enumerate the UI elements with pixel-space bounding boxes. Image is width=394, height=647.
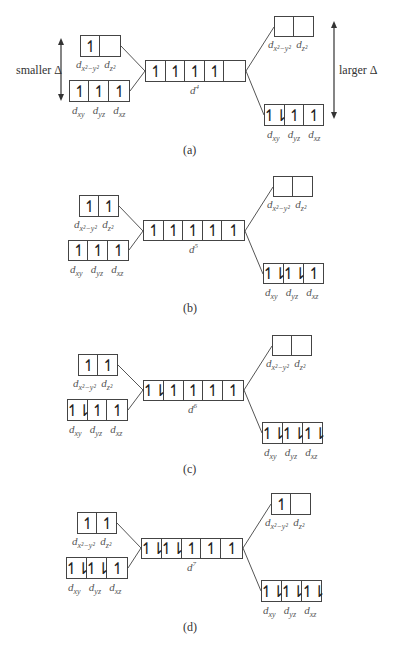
strong-field-t2g-box: ↿⇂ ↿⇂ ↿ <box>263 263 324 284</box>
free-orbital-5: ↿ <box>223 381 243 400</box>
orbital-dxz: ↿ <box>107 400 127 420</box>
strong-field-t2g-box: ↿⇂ ↿⇂ ↿⇂ <box>261 580 322 602</box>
free-orbital-1: ↿ <box>146 61 166 81</box>
strong-field-eg-box <box>274 16 314 37</box>
free-orbital-4: ↿ <box>203 381 223 400</box>
weak-field-t2g-box: ↿ ↿ ↿ <box>68 240 129 261</box>
orbital-dx2y2 <box>275 17 294 36</box>
config-label: d5 <box>189 242 198 255</box>
eg-labels: dx²−y² dz² <box>267 198 306 213</box>
panel-c: ↿ ↿ dx²−y² dz² ↿⇂ ↿ ↿ dxy dyz dxz ↿⇂ ↿ ↿… <box>0 320 394 480</box>
orbital-dxz: ↿ <box>304 264 323 283</box>
strong-field-eg-box <box>272 335 312 356</box>
orbital-dz2 <box>100 36 120 56</box>
orbital-dx2y2: ↿ <box>81 36 100 56</box>
free-orbital-3: ↿ <box>185 61 205 81</box>
free-orbital-5 <box>224 61 245 81</box>
panel-a: smaller Δ larger Δ ↿ dx²−y² dz² ↿ ↿ ↿ dx… <box>0 0 394 160</box>
t2g-labels: dxy dyz dxz <box>264 446 317 461</box>
t2g-labels: dxy dyz dxz <box>72 104 125 119</box>
orbital-dxy: ↿⇂ <box>67 558 87 578</box>
smaller-delta-label: smaller Δ <box>16 63 62 78</box>
connector-lines <box>0 480 394 640</box>
free-orbital-1: ↿ <box>144 221 164 240</box>
orbital-dyz: ↿⇂ <box>283 423 303 443</box>
orbital-dyz: ↿ <box>88 400 107 420</box>
orbital-dxy: ↿⇂ <box>264 264 284 283</box>
t2g-labels: dxy dyz dxz <box>69 423 122 438</box>
t2g-labels: dxy dyz dxz <box>263 604 316 619</box>
free-orbital-1: ↿⇂ <box>142 539 162 558</box>
t2g-labels: dxy dyz dxz <box>70 263 123 278</box>
orbital-dz2 <box>293 177 312 196</box>
orbital-dxy: ↿ <box>69 241 88 260</box>
panel-caption: (c) <box>183 462 196 477</box>
weak-field-t2g-box: ↿⇂ ↿⇂ ↿ <box>66 557 128 579</box>
t2g-labels: dxy dyz dxz <box>267 128 320 143</box>
config-label: d6 <box>188 402 197 415</box>
weak-field-eg-box: ↿ ↿ <box>78 354 118 376</box>
eg-labels: dx²−y² dz² <box>72 535 111 550</box>
panel-caption: (a) <box>183 143 196 158</box>
free-orbital-1: ↿⇂ <box>144 381 164 400</box>
orbital-dxy: ↿⇂ <box>68 400 88 420</box>
orbital-dx2y2: ↿ <box>80 196 99 216</box>
free-ion-box: ↿ ↿ ↿ ↿ <box>145 60 246 82</box>
strong-field-t2g-box: ↿⇂ ↿⇂ ↿⇂ <box>262 422 323 444</box>
panel-b: ↿ ↿ dx²−y² dz² ↿ ↿ ↿ dxy dyz dxz ↿ ↿ ↿ ↿… <box>0 160 394 320</box>
free-ion-box: ↿⇂ ↿⇂ ↿ ↿ ↿ <box>141 538 243 559</box>
orbital-dx2y2 <box>273 336 292 355</box>
orbital-dxz: ↿ <box>108 241 128 260</box>
strong-field-eg-box <box>273 176 313 197</box>
eg-labels: dx²−y² dz² <box>74 218 113 233</box>
weak-field-eg-box: ↿ <box>80 35 121 57</box>
eg-labels: dx²−y² dz² <box>265 516 304 531</box>
eg-labels: dx²−y² dz² <box>268 38 307 53</box>
free-orbital-3: ↿ <box>182 539 201 558</box>
larger-delta-label: larger Δ <box>339 63 377 78</box>
orbital-dx2y2 <box>274 177 293 196</box>
t2g-labels: dxy dyz dxz <box>265 286 318 301</box>
strong-field-t2g-box: ↿⇂ ↿ ↿ <box>264 104 324 126</box>
orbital-dxy: ↿⇂ <box>262 581 282 601</box>
orbital-dz2: ↿ <box>97 513 116 533</box>
t2g-labels: dxy dyz dxz <box>68 581 121 596</box>
orbital-dx2y2: ↿ <box>272 494 291 514</box>
free-orbital-4: ↿ <box>201 539 220 558</box>
free-orbital-2: ↿⇂ <box>162 539 182 558</box>
orbital-dxz: ↿ <box>109 81 129 101</box>
orbital-dxz: ↿⇂ <box>303 423 324 443</box>
config-label: d7 <box>187 560 196 573</box>
orbital-dz2 <box>292 336 311 355</box>
panel-caption: (d) <box>183 620 197 635</box>
orbital-dz2: ↿ <box>99 196 118 216</box>
orbital-dx2y2: ↿ <box>78 513 97 533</box>
orbital-dyz: ↿ <box>89 81 108 101</box>
free-orbital-2: ↿ <box>164 221 184 240</box>
orbital-dxy: ↿ <box>70 81 89 101</box>
orbital-dyz: ↿ <box>285 105 304 125</box>
free-orbital-5: ↿ <box>221 539 242 558</box>
weak-field-eg-box: ↿ ↿ <box>79 195 119 217</box>
strong-field-eg-box: ↿ <box>271 493 311 515</box>
orbital-dx2y2: ↿ <box>79 355 98 375</box>
free-orbital-4: ↿ <box>203 221 223 240</box>
eg-labels: dx²−y² dz² <box>73 377 112 392</box>
orbital-dyz: ↿ <box>88 241 107 260</box>
orbital-dxy: ↿⇂ <box>263 423 283 443</box>
free-orbital-4: ↿ <box>205 61 225 81</box>
free-ion-box: ↿ ↿ ↿ ↿ ↿ <box>143 220 245 241</box>
config-label: d4 <box>190 83 199 96</box>
orbital-dz2 <box>294 17 313 36</box>
eg-labels: dx²−y² dz² <box>266 357 305 372</box>
free-orbital-5: ↿ <box>222 221 244 240</box>
orbital-dz2: ↿ <box>98 355 117 375</box>
orbital-dxy: ↿⇂ <box>265 105 285 125</box>
free-ion-box: ↿⇂ ↿ ↿ ↿ ↿ <box>143 380 244 401</box>
free-orbital-3: ↿ <box>184 381 204 400</box>
orbital-dxz: ↿ <box>107 558 127 578</box>
panel-d: ↿ ↿ dx²−y² dz² ↿⇂ ↿⇂ ↿ dxy dyz dxz ↿⇂ ↿⇂… <box>0 480 394 640</box>
free-orbital-2: ↿ <box>164 381 184 400</box>
eg-labels: dx²−y² dz² <box>76 58 115 73</box>
weak-field-t2g-box: ↿⇂ ↿ ↿ <box>67 399 128 421</box>
